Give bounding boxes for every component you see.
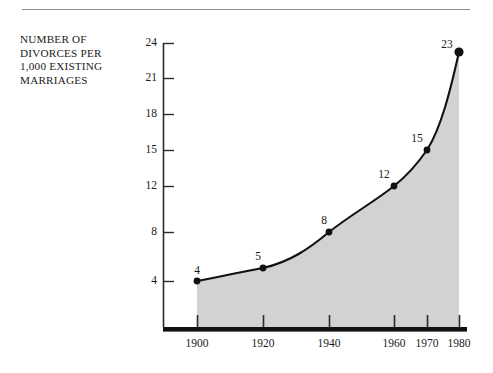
y-tick-label-8: 8 (131, 225, 157, 237)
data-point-1940[interactable] (326, 229, 333, 236)
data-label-1940: 8 (313, 214, 335, 226)
data-label-1980: 23 (436, 38, 458, 50)
data-label-1920: 5 (247, 250, 269, 262)
y-tick-label-4: 4 (131, 274, 157, 286)
area-fill (197, 52, 459, 327)
x-tick-label-1900: 1900 (177, 337, 217, 349)
x-axis-baseline (163, 327, 467, 332)
data-point-1960[interactable] (391, 183, 398, 190)
y-tick-label-12: 12 (131, 179, 157, 191)
data-point-1900[interactable] (194, 278, 201, 285)
x-tick-label-1980: 1980 (439, 337, 479, 349)
y-tick-label-15: 15 (131, 143, 157, 155)
data-point-1920[interactable] (260, 265, 267, 272)
y-tick-label-21: 21 (131, 71, 157, 83)
y-tick-label-24: 24 (131, 36, 157, 48)
x-tick-label-1920: 1920 (243, 337, 283, 349)
data-point-1970[interactable] (424, 147, 431, 154)
data-label-1970: 15 (406, 132, 428, 144)
y-axis-ticks (163, 44, 174, 282)
data-label-1960: 12 (373, 168, 395, 180)
y-tick-label-18: 18 (131, 107, 157, 119)
data-label-1900: 4 (186, 264, 208, 276)
chart-plot-area (0, 0, 493, 373)
x-tick-label-1940: 1940 (309, 337, 349, 349)
chart-figure: NUMBER OF DIVORCES PER 1,000 EXISTING MA… (0, 0, 493, 373)
